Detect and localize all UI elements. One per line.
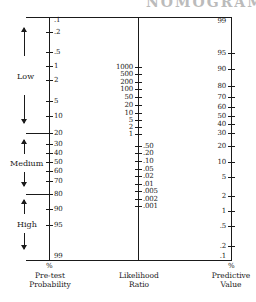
predictive-tick-mark bbox=[228, 124, 235, 125]
likelihood-caption: Likelihood Ratio bbox=[117, 271, 161, 289]
likelihood-tick-mark bbox=[135, 127, 142, 128]
pretest-tick-mark bbox=[46, 52, 53, 53]
medium-high-divider bbox=[26, 194, 46, 195]
predictive-caption: Predictive Value bbox=[209, 271, 253, 289]
predictive-tick-label: 70 bbox=[217, 93, 226, 101]
likelihood-tick-label: .02 bbox=[143, 172, 154, 180]
bottom-border bbox=[26, 260, 231, 261]
high-up-arrow-icon bbox=[24, 200, 25, 214]
predictive-tick-mark bbox=[228, 107, 235, 108]
likelihood-tick-mark bbox=[135, 74, 142, 75]
pretest-tick-mark bbox=[46, 181, 53, 182]
predictive-tick-label: .1 bbox=[220, 252, 226, 260]
pretest-tick-mark bbox=[46, 171, 53, 172]
pretest-tick-mark bbox=[46, 225, 53, 226]
pretest-tick-label: 40 bbox=[54, 149, 63, 157]
likelihood-tick-mark bbox=[135, 153, 142, 154]
pretest-caption-line1: Pre-test bbox=[29, 271, 71, 280]
predictive-tick-label: 50 bbox=[217, 112, 226, 120]
band-medium: Medium bbox=[10, 159, 43, 168]
likelihood-tick-label: .001 bbox=[143, 202, 158, 210]
predictive-caption-line2: Value bbox=[209, 280, 253, 289]
likelihood-tick-mark bbox=[135, 89, 142, 90]
pretest-tick-mark bbox=[46, 80, 53, 81]
pretest-tick-mark bbox=[46, 101, 53, 102]
pretest-tick-label: 2 bbox=[54, 76, 58, 84]
likelihood-tick-mark bbox=[135, 134, 142, 135]
predictive-tick-mark bbox=[228, 116, 235, 117]
predictive-tick-mark bbox=[228, 97, 235, 98]
pretest-tick-label: 60 bbox=[54, 167, 63, 175]
pretest-tick-mark bbox=[46, 32, 53, 33]
pretest-tick-label: 50 bbox=[54, 158, 63, 166]
pretest-tick-mark bbox=[46, 209, 53, 210]
likelihood-tick-mark bbox=[135, 105, 142, 106]
pretest-tick-mark bbox=[46, 194, 53, 195]
pretest-unit: % bbox=[46, 262, 52, 270]
pretest-tick-label: 95 bbox=[54, 221, 63, 229]
band-high: High bbox=[17, 220, 37, 229]
likelihood-tick-label: .20 bbox=[143, 149, 154, 157]
predictive-tick-mark bbox=[228, 69, 235, 70]
predictive-tick-label: 10 bbox=[217, 158, 226, 166]
pretest-tick-label: 20 bbox=[54, 129, 63, 137]
pretest-tick-mark bbox=[46, 153, 53, 154]
predictive-tick-label: .5 bbox=[220, 222, 226, 230]
band-low: Low bbox=[17, 72, 34, 81]
predictive-tick-mark bbox=[228, 246, 235, 247]
likelihood-tick-mark bbox=[135, 199, 142, 200]
medium-up-arrow-icon bbox=[24, 140, 25, 154]
likelihood-tick-mark bbox=[135, 206, 142, 207]
predictive-tick-mark bbox=[228, 211, 235, 212]
pretest-tick-label: .2 bbox=[54, 28, 60, 36]
pretest-tick-label: 90 bbox=[54, 205, 63, 213]
pretest-tick-label: 5 bbox=[54, 97, 58, 105]
cut-off-title: NOMOGRAM bbox=[146, 0, 256, 10]
low-down-arrow-icon bbox=[24, 95, 25, 123]
pretest-tick-label: 80 bbox=[54, 190, 63, 198]
high-down-arrow-icon bbox=[24, 233, 25, 249]
predictive-tick-mark bbox=[228, 162, 235, 163]
pretest-tick-mark bbox=[46, 116, 53, 117]
predictive-tick-label: 80 bbox=[217, 82, 226, 90]
likelihood-tick-mark bbox=[135, 146, 142, 147]
predictive-tick-mark bbox=[228, 226, 235, 227]
predictive-tick-mark bbox=[228, 53, 235, 54]
predictive-tick-label: 90 bbox=[217, 65, 226, 73]
pretest-tick-label: 1 bbox=[54, 62, 58, 70]
likelihood-tick-label: .10 bbox=[143, 157, 154, 165]
likelihood-axis bbox=[138, 17, 139, 261]
predictive-tick-mark bbox=[228, 196, 235, 197]
pretest-tick-mark bbox=[46, 144, 53, 145]
pretest-tick-mark bbox=[46, 162, 53, 163]
likelihood-tick-mark bbox=[135, 120, 142, 121]
pretest-tick-label: .5 bbox=[54, 48, 60, 56]
likelihood-tick-label: 20 bbox=[124, 101, 133, 109]
predictive-tick-mark bbox=[228, 177, 235, 178]
pretest-tick-label: 70 bbox=[54, 177, 63, 185]
likelihood-caption-line2: Ratio bbox=[117, 280, 161, 289]
likelihood-tick-label: 1 bbox=[129, 130, 133, 138]
likelihood-tick-mark bbox=[135, 184, 142, 185]
likelihood-tick-label: 500 bbox=[120, 70, 133, 78]
low-up-arrow-icon bbox=[24, 28, 25, 56]
predictive-tick-label: 99 bbox=[217, 17, 226, 25]
predictive-tick-label: 60 bbox=[217, 103, 226, 111]
predictive-unit: % bbox=[228, 262, 234, 270]
predictive-tick-mark bbox=[228, 86, 235, 87]
predictive-tick-mark bbox=[228, 146, 235, 147]
likelihood-tick-label: .005 bbox=[143, 187, 158, 195]
pretest-caption-line2: Probability bbox=[29, 280, 71, 289]
predictive-tick-label: 40 bbox=[217, 120, 226, 128]
predictive-tick-label: 5 bbox=[222, 173, 226, 181]
likelihood-tick-mark bbox=[135, 161, 142, 162]
pretest-tick-mark bbox=[46, 66, 53, 67]
likelihood-tick-mark bbox=[135, 191, 142, 192]
predictive-tick-label: 20 bbox=[217, 142, 226, 150]
likelihood-tick-mark bbox=[135, 67, 142, 68]
likelihood-tick-label: 100 bbox=[120, 85, 133, 93]
predictive-tick-label: .2 bbox=[220, 242, 226, 250]
pretest-caption: Pre-test Probability bbox=[29, 271, 71, 289]
likelihood-tick-mark bbox=[135, 176, 142, 177]
pretest-tick-mark bbox=[46, 133, 53, 134]
